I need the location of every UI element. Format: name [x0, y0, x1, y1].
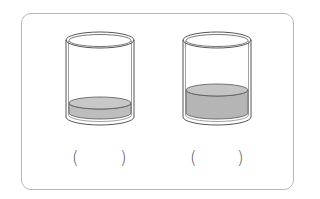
glass-left-icon	[62, 31, 138, 131]
glass-right-icon	[179, 31, 255, 131]
answer-left-open: (	[72, 148, 79, 168]
answer-right-open: (	[190, 148, 197, 168]
answer-right-close: )	[237, 148, 244, 168]
answer-left-close: )	[120, 148, 127, 168]
